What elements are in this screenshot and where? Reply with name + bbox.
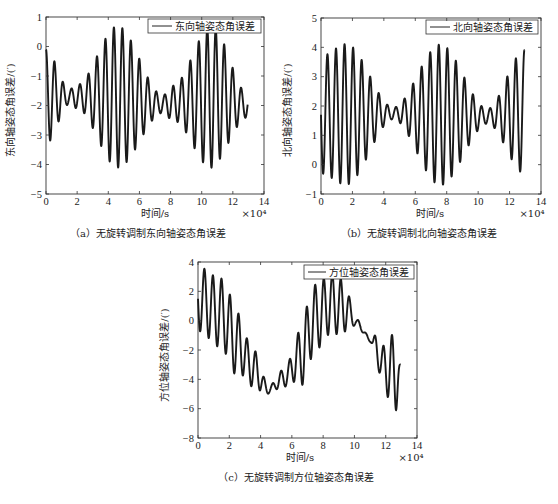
curve-a (46, 27, 248, 167)
x-tick-label: 6 (289, 440, 294, 451)
legend-a: 东向轴姿态角误差 (148, 19, 261, 33)
xlabel-c: 时间/s (286, 451, 315, 463)
x-tick-label: 2 (227, 440, 232, 451)
y-tick-label: −2 (31, 100, 42, 111)
legend-b: 北向轴姿态角误差 (426, 20, 538, 34)
x-tick-label: 10 (473, 196, 484, 207)
y-tick-label: 3 (312, 71, 317, 82)
x-tick-label: 4 (381, 196, 387, 207)
subplot-b: 北向轴姿态角误差/(′) 时间/s ×10⁴ （b）无旋转调制北向轴姿态角误差 … (281, 13, 547, 240)
x-tick-label: 10 (349, 440, 360, 451)
x-tick-label: 0 (43, 196, 48, 207)
y-tick-label: 2 (189, 286, 194, 297)
caption-a: （a）无旋转调制东向轴姿态角误差 (70, 227, 226, 239)
y-tick-label: 0 (37, 41, 42, 52)
x-tick-label: 4 (106, 196, 112, 207)
curve-b (321, 44, 525, 184)
x-tick-label: 12 (504, 196, 515, 207)
y-tick-label: −1 (306, 189, 317, 200)
y-tick-label: 4 (189, 257, 195, 268)
x-tick-label: 8 (444, 196, 449, 207)
x-tick-label: 10 (196, 196, 207, 207)
ylabel-c: 方位轴姿态角误差/(′) (158, 308, 170, 402)
x-tick-label: 6 (137, 196, 142, 207)
x-tick-label: 12 (380, 440, 391, 451)
y-tick-label: −4 (31, 159, 43, 170)
x-tick-label: 6 (413, 196, 418, 207)
x-tick-label: 2 (75, 196, 80, 207)
figure-canvas: 东向轴姿态角误差/(′) 时间/s ×10⁴ （a）无旋转调制东向轴姿态角误差 … (0, 0, 558, 504)
x-tick-label: 8 (168, 196, 173, 207)
y-tick-label: −4 (183, 374, 195, 385)
y-tick-label: 5 (312, 13, 317, 24)
y-tick-label: 0 (312, 159, 317, 170)
x-tick-label: 14 (259, 196, 270, 207)
xscale-a: ×10⁴ (241, 208, 266, 219)
ylabel-b: 北向轴姿态角误差/(′) (281, 63, 293, 157)
xscale-c: ×10⁴ (398, 452, 423, 463)
legend-label-b: 北向轴姿态角误差 (453, 21, 533, 33)
y-tick-label: 4 (312, 42, 318, 53)
xscale-b: ×10⁴ (519, 208, 544, 219)
x-tick-label: 14 (412, 440, 423, 451)
x-tick-label: 12 (228, 196, 239, 207)
subplot-c: 方位轴姿态角误差/(′) 时间/s ×10⁴ （c）无旋转调制方位轴姿态角误差 … (158, 257, 424, 484)
legend-label-a: 东向轴姿态角误差 (175, 20, 255, 32)
x-tick-label: 4 (258, 440, 264, 451)
ylabel-a: 东向轴姿态角误差/(′) (4, 63, 16, 157)
x-tick-label: 0 (318, 196, 323, 207)
legend-c: 方位轴姿态角误差 (304, 265, 414, 279)
xlabel-a: 时间/s (141, 207, 170, 219)
plot-frame-b (321, 18, 541, 194)
curve-c (198, 269, 401, 410)
y-tick-label: −5 (31, 189, 42, 200)
y-tick-label: −2 (183, 345, 194, 356)
caption-c: （c）无旋转调制方位轴姿态角误差 (218, 471, 374, 483)
y-tick-label: −6 (183, 403, 194, 414)
x-tick-label: 14 (536, 196, 547, 207)
y-tick-label: −1 (31, 71, 42, 82)
y-tick-label: 2 (312, 101, 317, 112)
y-tick-label: 1 (312, 130, 317, 141)
xlabel-b: 时间/s (416, 207, 445, 219)
subplot-a: 东向轴姿态角误差/(′) 时间/s ×10⁴ （a）无旋转调制东向轴姿态角误差 … (4, 12, 270, 240)
legend-label-c: 方位轴姿态角误差 (329, 266, 409, 278)
x-tick-label: 0 (195, 440, 200, 451)
y-tick-label: −3 (31, 130, 42, 141)
y-tick-label: 1 (37, 12, 42, 23)
x-tick-label: 8 (321, 440, 326, 451)
x-tick-label: 2 (350, 196, 355, 207)
caption-b: （b）无旋转调制北向轴姿态角误差 (341, 227, 497, 239)
y-tick-label: −8 (183, 433, 194, 444)
y-tick-label: 0 (189, 315, 194, 326)
